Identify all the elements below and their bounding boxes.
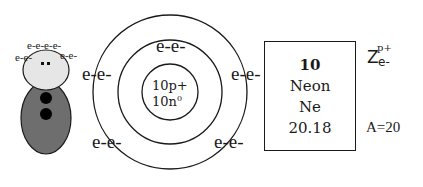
electrons-right: e-e- — [231, 64, 261, 83]
z-superscript: p+ — [377, 43, 392, 53]
element-card: 10 Neon Ne 20.18 — [264, 41, 356, 151]
electrons-bottom-right: e-e- — [214, 132, 244, 151]
figure-eye-left — [41, 62, 44, 65]
nucleus-protons: 10p+ — [152, 79, 188, 92]
head-electrons-left: e-e- — [15, 52, 32, 63]
head-electrons-right: e-e- — [60, 50, 77, 61]
electrons-top: e-e- — [156, 36, 186, 55]
atomic-number: 10 — [265, 56, 355, 74]
element-name: Neon — [265, 77, 355, 95]
mass-number: A=20 — [366, 120, 400, 135]
z-subscript: e- — [378, 56, 390, 68]
diagram-canvas — [0, 0, 423, 187]
nucleus-neutrons: 10n0 — [152, 95, 182, 108]
figure-dot-upper — [40, 92, 52, 104]
neutron-charge: 0 — [177, 94, 182, 103]
atomic-mass: 20.18 — [265, 119, 355, 137]
figure-eye-right — [47, 62, 50, 65]
element-symbol: Ne — [265, 98, 355, 116]
electrons-bottom-left: e-e- — [92, 132, 122, 151]
figure-dot-lower — [40, 108, 52, 120]
neutron-count: 10n — [152, 94, 177, 109]
electrons-left: e-e- — [82, 64, 112, 83]
head-electrons-top: e-e-e-e- — [27, 40, 61, 51]
